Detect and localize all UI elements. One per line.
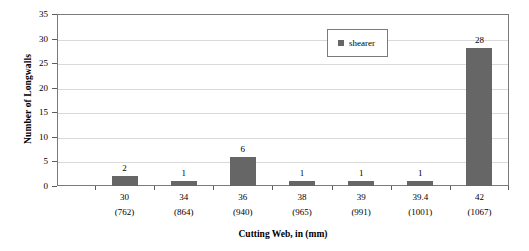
legend-item-label: shearer <box>349 38 375 48</box>
y-axis-tick-label: 15 <box>39 107 48 117</box>
x-axis-tick-labels: 30(762)34(864)36(940)38(965)39(991)39.4(… <box>57 190 509 230</box>
category-value: 36 <box>213 190 272 205</box>
category-value: 30 <box>95 190 154 205</box>
category-mm-value: (965) <box>272 205 331 220</box>
category-value: 39 <box>332 190 391 205</box>
x-axis-category-label: 30(762) <box>95 190 154 220</box>
gridline <box>58 89 508 90</box>
x-axis-category-label: 39.4(1001) <box>391 190 450 220</box>
y-axis-tick-label: 0 <box>44 181 49 191</box>
category-mm-value: (940) <box>213 205 272 220</box>
x-axis-category-label: 34(864) <box>154 190 213 220</box>
x-axis-category-label: 38(965) <box>272 190 331 220</box>
y-axis-tick-label: 30 <box>39 34 48 44</box>
bar-chart: Number of Longwalls 05101520253035 21611… <box>0 0 529 251</box>
category-mm-value: (1067) <box>450 205 509 220</box>
category-mm-value: (991) <box>332 205 391 220</box>
x-axis-category-label: 42(1067) <box>450 190 509 220</box>
legend: shearer <box>327 29 388 57</box>
gridline <box>58 64 508 65</box>
legend-swatch-icon <box>338 40 344 46</box>
gridline <box>58 138 508 139</box>
x-axis-category-label: 39(991) <box>332 190 391 220</box>
y-axis-tick-label: 5 <box>44 156 49 166</box>
category-mm-value: (1001) <box>391 205 450 220</box>
category-value: 42 <box>450 190 509 205</box>
gridline <box>58 113 508 114</box>
category-mm-value: (864) <box>154 205 213 220</box>
y-axis-tick-label: 10 <box>39 132 48 142</box>
legend-item-shearer: shearer <box>338 38 375 48</box>
category-value: 34 <box>154 190 213 205</box>
x-axis-title: Cutting Web, in (mm) <box>57 229 509 239</box>
plot-area <box>57 14 509 186</box>
gridline <box>58 162 508 163</box>
category-value: 38 <box>272 190 331 205</box>
category-mm-value: (762) <box>95 205 154 220</box>
y-axis-tick-label: 35 <box>39 9 48 19</box>
category-value: 39.4 <box>391 190 450 205</box>
y-axis-tick-label: 25 <box>39 58 48 68</box>
y-axis: 05101520253035 <box>0 14 57 186</box>
x-axis-category-label: 36(940) <box>213 190 272 220</box>
gridlines <box>58 15 508 185</box>
y-axis-tick-label: 20 <box>39 83 48 93</box>
gridline <box>58 40 508 41</box>
